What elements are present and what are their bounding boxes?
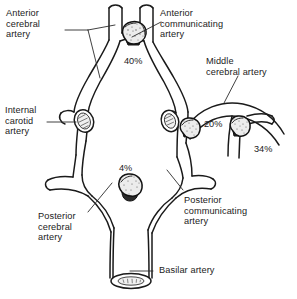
aneurysm-anterior-communicating [123,22,147,45]
circle-of-willis-right-limb [144,41,188,113]
aneurysm-basilar-tip [119,174,142,201]
leader-posterior-communicating [167,170,183,190]
circle-of-willis-illustration [0,0,297,299]
percent-label-basilar-tip: 4% [119,163,132,174]
leader-anterior-cerebral-lower [88,30,100,78]
basilar-artery [110,228,152,289]
posterior-communicating-artery-left [73,141,86,177]
circle-of-willis-left-limb [74,40,120,113]
aneurysm-carotid-pcom [180,118,200,138]
carotid-cut-end-left [71,107,97,135]
aneurysm-diagram-figure: Anterior cerebral artery Anterior commun… [0,0,297,299]
label-internal-carotid-artery: Internal carotid artery [5,105,36,137]
anterior-cerebral-artery-left [109,5,122,40]
percent-label-mca-bifurcation: 34% [254,144,272,155]
posterior-communicating-artery-right [177,143,192,178]
leader-middle-cerebral [224,76,238,103]
leader-posterior-cerebral [88,183,112,212]
internal-carotid-artery-left [60,107,97,155]
label-posterior-cerebral-artery: Posterior cerebral artery [38,211,76,243]
label-basilar-artery: Basilar artery [159,265,215,276]
label-posterior-communicating-artery: Posterior communicating artery [184,195,247,227]
aneurysm-mca-bifurcation [230,116,250,136]
leader-anterior-cerebral-upper [88,25,115,30]
label-anterior-cerebral-artery: Anterior cerebral artery [6,8,40,40]
percent-label-anterior-communicating: 40% [124,56,142,67]
percent-label-carotid-pcom: 20% [204,119,222,130]
label-middle-cerebral-artery: Middle cerebral artery [206,56,267,77]
label-anterior-communicating-artery: Anterior communicating artery [160,8,223,40]
basilar-cut-end [111,274,151,289]
